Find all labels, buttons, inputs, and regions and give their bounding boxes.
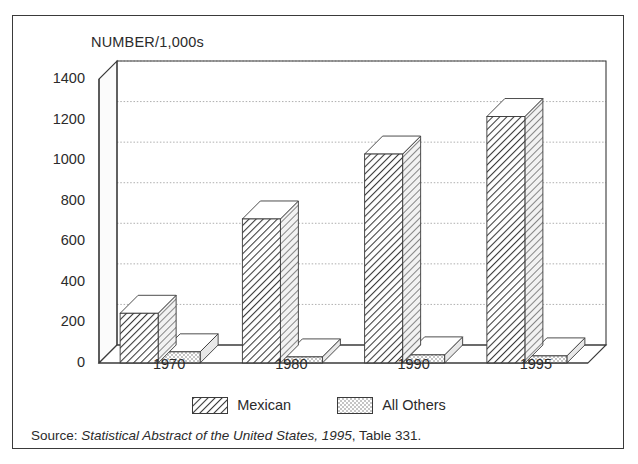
chart-legend: MexicanAll Others bbox=[13, 391, 625, 419]
bar-mexican-1995 bbox=[487, 99, 543, 363]
source-suffix: , Table 331. bbox=[352, 428, 422, 443]
legend-item-all-others: All Others bbox=[337, 397, 446, 414]
figure-frame: NUMBER/1,000s 0200400600800100012001400 bbox=[12, 15, 624, 449]
legend-label: All Others bbox=[382, 397, 446, 413]
source-note: Source: Statistical Abstract of the Unit… bbox=[31, 428, 421, 443]
legend-swatch-stipple-dots bbox=[337, 397, 373, 414]
source-divider bbox=[13, 420, 625, 421]
chart-area: NUMBER/1,000s 0200400600800100012001400 bbox=[13, 16, 625, 388]
legend-label: Mexican bbox=[237, 397, 291, 413]
bars-layer bbox=[99, 79, 588, 363]
source-prefix: Source: bbox=[31, 428, 78, 443]
x-tick-label: 1970 bbox=[134, 356, 204, 372]
x-tick-label: 1995 bbox=[501, 356, 571, 372]
bar-mexican-1980 bbox=[242, 201, 298, 363]
bar-mexican-1970 bbox=[120, 295, 176, 363]
bar-mexican-1990 bbox=[365, 136, 421, 363]
source-title: Statistical Abstract of the United State… bbox=[81, 428, 351, 443]
x-tick-label: 1990 bbox=[379, 356, 449, 372]
plot-canvas bbox=[13, 16, 625, 388]
legend-item-mexican: Mexican bbox=[192, 397, 291, 414]
legend-swatch-diagonal-hatch bbox=[192, 397, 228, 414]
x-axis-tick-labels: 1970198019901995 bbox=[13, 356, 625, 380]
x-tick-label: 1980 bbox=[256, 356, 326, 372]
